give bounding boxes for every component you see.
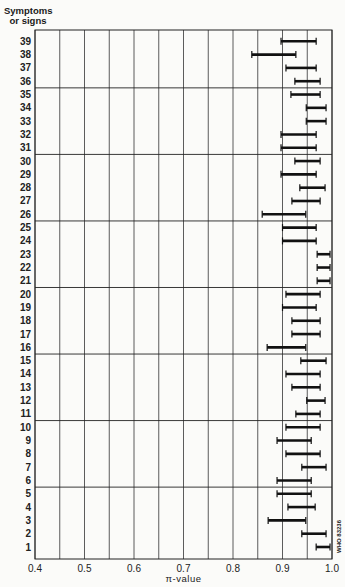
y-tick-label: 20 (20, 289, 32, 300)
y-tick-label: 3 (25, 515, 31, 526)
y-tick-label: 39 (20, 36, 32, 47)
y-tick-label: 27 (20, 195, 32, 206)
y-tick-label: 17 (20, 329, 32, 340)
y-tick-label: 6 (25, 475, 31, 486)
range-chart: 1234567891011121314151617181920212223242… (0, 0, 345, 587)
x-tick-label: 0.6 (127, 563, 141, 574)
y-tick-label: 13 (20, 382, 32, 393)
y-tick-label: 23 (20, 249, 32, 260)
x-tick-label: 0.9 (276, 563, 290, 574)
y-tick-label: 31 (20, 142, 32, 153)
y-tick-label: 35 (20, 89, 32, 100)
y-tick-label: 14 (20, 368, 32, 379)
y-tick-label: 25 (20, 222, 32, 233)
y-tick-label: 21 (20, 275, 32, 286)
x-tick-label: 0.8 (226, 563, 240, 574)
y-tick-label: 18 (20, 315, 32, 326)
y-tick-label: 19 (20, 302, 32, 313)
y-tick-label: 26 (20, 209, 32, 220)
x-tick-label: 0.4 (28, 563, 42, 574)
y-tick-label: 4 (25, 502, 31, 513)
y-tick-label: 32 (20, 129, 32, 140)
y-tick-label: 7 (25, 462, 31, 473)
y-tick-label: 37 (20, 62, 32, 73)
y-tick-label: 33 (20, 116, 32, 127)
y-tick-label: 36 (20, 76, 32, 87)
y-tick-label: 12 (20, 395, 32, 406)
y-tick-label: 16 (20, 342, 32, 353)
y-tick-label: 38 (20, 49, 32, 60)
y-tick-label: 5 (25, 488, 31, 499)
y-tick-label: 9 (25, 435, 31, 446)
y-tick-label: 22 (20, 262, 32, 273)
y-tick-label: 8 (25, 448, 31, 459)
y-tick-label: 2 (25, 528, 31, 539)
y-tick-label: 1 (25, 542, 31, 553)
y-tick-label: 28 (20, 182, 32, 193)
y-tick-label: 34 (20, 102, 32, 113)
y-tick-label: 15 (20, 355, 32, 366)
y-tick-label: 10 (20, 422, 32, 433)
figure-code: WHO 83236 (336, 519, 342, 553)
x-axis-title: π-value (166, 573, 202, 584)
y-tick-label: 29 (20, 169, 32, 180)
x-tick-label: 0.5 (78, 563, 92, 574)
x-tick-label: 1.0 (325, 563, 339, 574)
y-tick-label: 24 (20, 235, 32, 246)
y-tick-label: 11 (20, 408, 31, 419)
y-tick-label: 30 (20, 156, 32, 167)
